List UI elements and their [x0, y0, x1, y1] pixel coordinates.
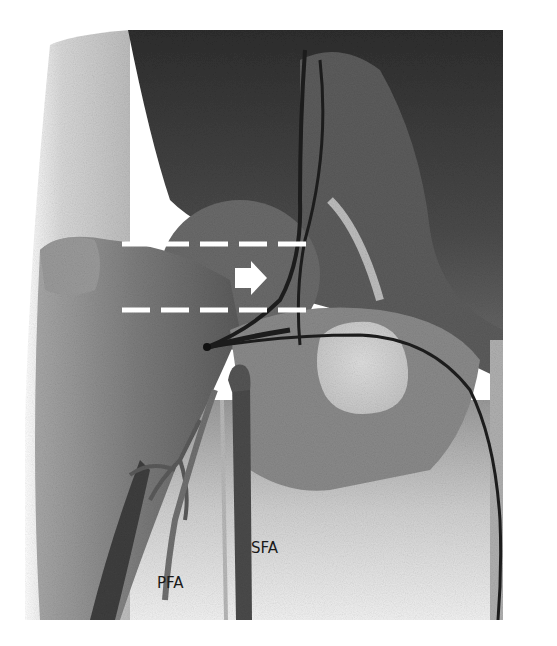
sfa-label: SFA — [251, 539, 278, 557]
pfa-label: PFA — [157, 574, 184, 592]
hip-xray-image — [0, 0, 557, 646]
angiogram-figure: PFA SFA — [0, 0, 557, 646]
